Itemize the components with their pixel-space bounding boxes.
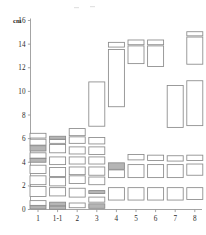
range-box [128, 188, 144, 200]
range-box [89, 82, 105, 126]
x-axis-tick-label: 8 [193, 215, 197, 223]
range-box [108, 188, 124, 200]
y-axis-tick-label: 12 [18, 64, 26, 72]
range-box [89, 204, 105, 208]
range-box [148, 46, 164, 67]
range-box [69, 188, 85, 197]
y-axis-tick-label: 6 [22, 135, 26, 143]
range-box [30, 139, 46, 145]
range-box [50, 145, 66, 153]
y-axis-tick-label: 4 [22, 159, 26, 167]
box-column [50, 136, 66, 209]
y-axis-tick-label: 14 [18, 41, 26, 49]
range-box [167, 85, 183, 127]
range-box [30, 153, 46, 158]
range-box [167, 156, 183, 161]
range-box [148, 188, 164, 200]
range-box [69, 176, 85, 184]
x-axis-tick-label: 2 [75, 215, 79, 223]
box-column [128, 40, 144, 200]
range-box [108, 42, 124, 47]
range-box [187, 155, 203, 160]
range-box [128, 155, 144, 160]
x-axis-tick-label: 5 [134, 215, 138, 223]
scan-speck [90, 6, 95, 7]
range-box [89, 197, 105, 202]
range-box [128, 40, 144, 45]
range-box [69, 129, 85, 136]
range-box [50, 188, 66, 196]
x-axis-tick-label: 1 [36, 215, 40, 223]
range-box [108, 49, 124, 106]
x-axis-tick-label: 1-1 [53, 215, 63, 223]
range-box [50, 157, 66, 165]
box-column [187, 32, 203, 200]
x-axis-tick-label: 3 [95, 215, 99, 223]
range-box [89, 137, 105, 144]
range-box [50, 178, 66, 186]
scan-speck [74, 7, 79, 8]
range-box [128, 46, 144, 64]
chart-canvas: cm 0246810121416 11-12345678 [0, 0, 206, 235]
range-box [89, 147, 105, 155]
x-axis: 11-12345678 [31, 210, 203, 223]
x-axis-tick-label: 6 [154, 215, 158, 223]
range-box [187, 32, 203, 36]
range-box [128, 165, 144, 178]
range-box [50, 136, 66, 139]
range-box [148, 165, 164, 178]
range-box [108, 163, 124, 170]
box-series-layer [30, 32, 203, 210]
range-box [30, 186, 46, 196]
box-column [30, 133, 46, 209]
range-box [50, 168, 66, 177]
range-box [89, 177, 105, 185]
range-box [89, 157, 105, 164]
range-chart: cm 0246810121416 11-12345678 [0, 0, 206, 235]
box-column [69, 129, 85, 208]
box-column [148, 40, 164, 200]
range-box [187, 164, 203, 175]
y-axis-tick-label: 0 [22, 206, 26, 214]
range-box [69, 157, 85, 164]
range-box [69, 137, 85, 144]
range-box [108, 170, 124, 178]
range-box [30, 146, 46, 151]
range-box [89, 191, 105, 194]
range-box [30, 133, 46, 138]
range-box [30, 206, 46, 209]
x-axis-tick-label: 4 [115, 215, 119, 223]
range-box [69, 147, 85, 154]
y-axis: 0246810121416 [18, 17, 30, 214]
range-box [148, 155, 164, 160]
range-box [30, 176, 46, 185]
y-axis-tick-label: 10 [18, 88, 26, 96]
scan-artifact-text [74, 6, 95, 8]
range-box [30, 201, 46, 206]
y-axis-tick-label: 16 [18, 17, 26, 25]
range-box [148, 40, 164, 45]
range-box [167, 165, 183, 178]
range-box [50, 140, 66, 144]
box-column [108, 42, 124, 200]
range-box [167, 188, 183, 200]
y-axis-tick-label: 2 [22, 182, 26, 190]
range-box [50, 202, 66, 206]
range-box [69, 167, 85, 175]
box-column [167, 85, 183, 200]
range-box [187, 37, 203, 64]
range-box [30, 165, 46, 173]
y-axis-tick-label: 8 [22, 112, 26, 120]
range-box [69, 203, 85, 208]
range-box [187, 81, 203, 126]
range-box [30, 158, 46, 162]
range-box [89, 167, 105, 175]
range-box [50, 206, 66, 209]
x-axis-tick-label: 7 [173, 215, 177, 223]
range-box [187, 188, 203, 200]
box-column [89, 82, 105, 208]
